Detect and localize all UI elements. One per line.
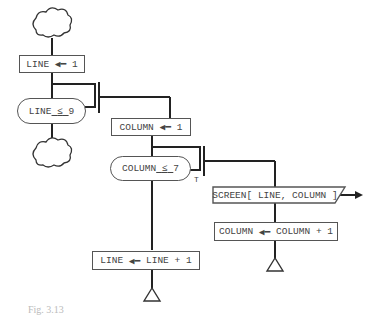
line-increment-box: LINE ◀━ LINE + 1 xyxy=(92,251,200,270)
assign-arrow-icon: ◀━ xyxy=(253,226,276,238)
connector-lines xyxy=(0,0,380,320)
terminal-triangle-icon xyxy=(144,288,160,301)
cloud-start-icon xyxy=(33,8,72,37)
assign-arrow-icon: ◀━ xyxy=(154,121,177,133)
assign-arrow-icon: ◀━ xyxy=(49,58,72,70)
line-condition: LINE ≤ 9 xyxy=(17,98,86,124)
column-increment-box: COLUMN ◀━ COLUMN + 1 xyxy=(214,222,338,241)
assign-arrow-icon: ◀━ xyxy=(123,255,146,267)
column-condition: COLUMN ≤ 7 xyxy=(110,156,191,181)
terminal-triangle-icon xyxy=(267,258,283,271)
line-init-box: LINE ◀━ 1 xyxy=(19,55,85,73)
column-init-box: COLUMN ◀━ 1 xyxy=(111,118,191,136)
output-arrow-icon xyxy=(355,191,363,199)
output-text: SCREEN[ LINE, COLUMN ] xyxy=(214,188,336,202)
true-label: T xyxy=(194,175,199,184)
cloud-end-icon xyxy=(33,138,72,167)
figure-caption: Fig. 3.13 xyxy=(28,304,64,315)
